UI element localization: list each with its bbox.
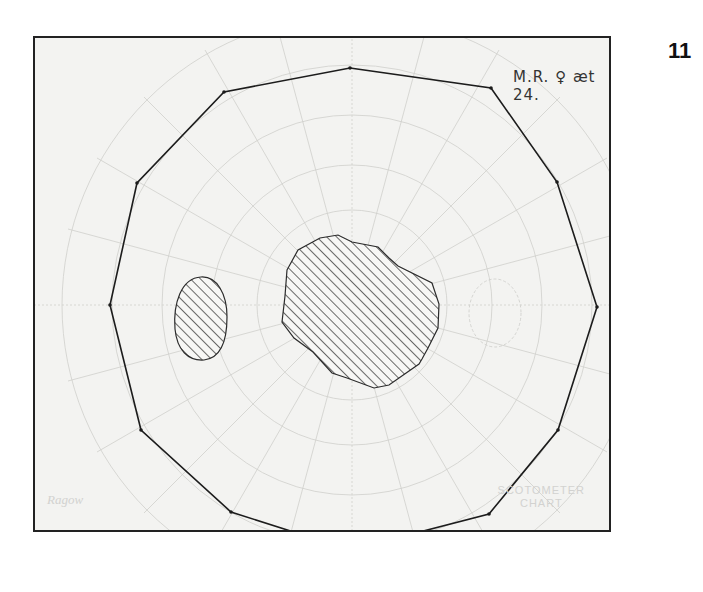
chart-label-line1: SCOTOMETER [498, 484, 585, 497]
maker-mark: Ragow [47, 492, 83, 508]
scotometer-chart: M.R. ♀ æt 24. SCOTOMETER CHART Ragow [33, 36, 611, 532]
blind-spot-outline [469, 279, 521, 347]
chart-label-line2: CHART [498, 497, 585, 510]
chart-label: SCOTOMETER CHART [498, 484, 585, 510]
figure-number: 11 [668, 38, 691, 64]
chart-canvas [35, 38, 611, 532]
paracentral-scotoma [175, 277, 227, 360]
central-scotoma [282, 235, 439, 388]
patient-annotation: M.R. ♀ æt 24. [513, 68, 609, 104]
